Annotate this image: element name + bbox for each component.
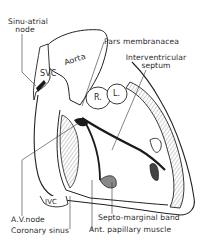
av-node-mark — [74, 118, 88, 126]
papillary-muscle — [100, 176, 116, 188]
sinu-atrial-node-label: Sinu-atrial node — [8, 18, 42, 34]
av-node-label: A.V.node — [11, 216, 45, 224]
bundle-branch-2 — [85, 122, 100, 180]
interventricular-line2: septum — [116, 62, 196, 70]
septo-marginal-band-label: Septo-marginal band — [98, 214, 180, 222]
coronary-sinus-label: Coronary sinus — [11, 227, 69, 235]
svc-label: SVC — [40, 70, 56, 78]
heart-conduction-diagram: Sinu-atrial node SVC Aorta Pars membrana… — [0, 0, 210, 252]
septum-band — [126, 82, 184, 208]
right-structure-2 — [150, 163, 158, 180]
ant-papillary-muscle-label: Ant. papillary muscle — [89, 226, 171, 234]
r-cusp-label: R. — [94, 94, 102, 102]
ivc-label: IVC — [45, 198, 57, 206]
sinu-atrial-line2: node — [8, 26, 42, 34]
right-structure-1 — [150, 138, 161, 152]
interventricular-septum-label: Interventricular septum — [116, 54, 196, 70]
l-cusp-label: L. — [113, 90, 120, 98]
pars-membranacea-label: Pars membranacea — [104, 38, 179, 46]
trabecular-region — [60, 115, 79, 188]
